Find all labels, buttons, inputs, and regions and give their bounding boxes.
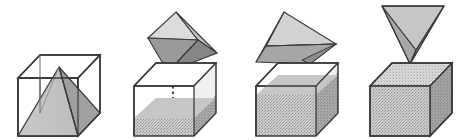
panel-2-drawing (118, 0, 243, 140)
panel-4-cube (370, 63, 452, 136)
panel-3-cube (256, 63, 338, 136)
panel-3-drawing (240, 0, 365, 140)
pyramid-cube-volume-figure: Four-stage sequence showing a square pyr… (0, 0, 475, 140)
panel-1-drawing (0, 0, 120, 140)
panel-3-pyramid (256, 12, 336, 64)
cube-front-face-sand (256, 95, 316, 136)
panel-2-cube (134, 63, 216, 136)
panel-4 (360, 0, 475, 140)
pyramid-face-center (382, 6, 444, 50)
pyramid-face-bottom (256, 44, 336, 64)
panel-2 (118, 0, 243, 140)
panel-3 (240, 0, 365, 140)
cube-front-face-sand (370, 86, 430, 136)
pyramid-face-upper (266, 12, 336, 46)
cube-front-face-sand (134, 118, 194, 136)
panel-4-drawing (360, 0, 475, 140)
panel-1 (0, 0, 120, 140)
panel-4-pyramid (382, 6, 444, 64)
